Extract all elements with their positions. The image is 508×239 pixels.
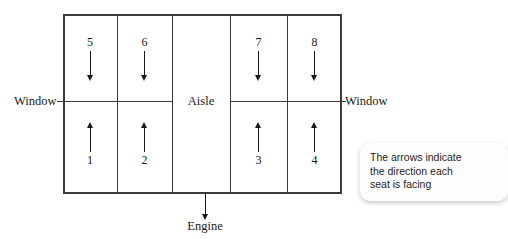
seat-number-5: 5 [87,36,93,49]
row-divider-left [63,101,172,102]
window-connector-left [57,101,64,102]
seat-direction-arrow-up-3 [254,122,263,152]
callout-line-1: The arrows indicate [370,151,498,165]
seat-number-7: 7 [256,36,262,49]
engine-direction-arrow-icon [201,194,210,220]
seat-number-3: 3 [256,154,262,167]
seat-number-1: 1 [87,154,93,167]
seat-direction-arrow-up-4 [310,122,319,152]
aisle-label: Aisle [172,94,230,108]
callout-line-3: seat is facing [370,178,498,192]
seat-cell-2[interactable]: 2 [117,116,172,172]
seat-direction-arrow-down-5 [86,51,95,81]
seat-cell-4[interactable]: 4 [287,116,342,172]
seat-number-2: 2 [142,154,148,167]
callout-line-2: the direction each [370,165,498,179]
window-label-left: Window [14,94,57,108]
seat-cell-6[interactable]: 6 [117,30,172,86]
seat-number-8: 8 [312,36,318,49]
seat-number-6: 6 [142,36,148,49]
arrows-legend-callout: The arrows indicate the direction each s… [360,143,508,201]
seat-direction-arrow-up-2 [140,122,149,152]
seat-number-4: 4 [312,154,318,167]
seat-direction-arrow-up-1 [86,122,95,152]
seat-cell-8[interactable]: 8 [287,30,342,86]
seat-cell-1[interactable]: 1 [63,116,117,172]
window-label-right: Window [345,94,388,108]
seat-cell-5[interactable]: 5 [63,30,117,86]
seat-direction-arrow-down-6 [140,51,149,81]
seat-cell-7[interactable]: 7 [230,30,287,86]
engine-label: Engine [165,219,245,233]
seat-direction-arrow-down-7 [254,51,263,81]
seat-cell-3[interactable]: 3 [230,116,287,172]
row-divider-right [230,101,342,102]
seat-direction-arrow-down-8 [310,51,319,81]
